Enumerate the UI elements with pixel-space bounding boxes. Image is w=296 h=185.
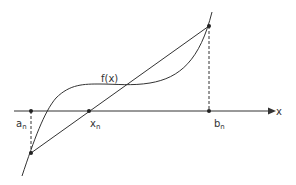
x-axis-arrow-icon [268,108,276,115]
b-point [207,109,211,113]
function-curve [22,12,212,176]
x-label: xn [90,118,100,131]
f-b-point [207,24,211,28]
b-label: bn [214,118,225,131]
secant-line [31,26,209,153]
a-point [29,109,33,113]
f-a-point [29,151,33,155]
regula-falsi-diagram: f(x) x an xn bn [0,0,296,185]
function-label: f(x) [101,73,118,84]
axis-label: x [276,106,282,117]
x-point [87,109,91,113]
a-label: an [16,118,27,131]
